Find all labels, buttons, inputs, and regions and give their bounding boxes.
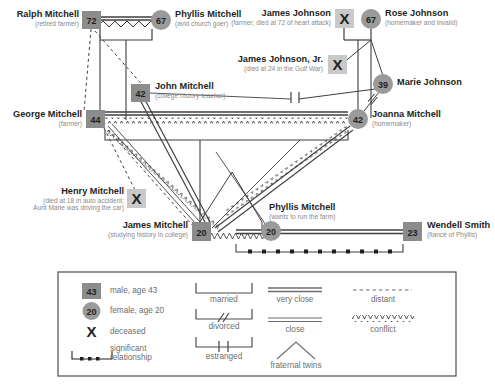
label-wendell-name: Wendell Smith bbox=[427, 221, 495, 231]
marriage-phyllisjr-wendell bbox=[236, 230, 403, 254]
legend-label-married: married bbox=[190, 295, 258, 304]
label-james-johnson: James Johnson (farmer; died at 72 of hea… bbox=[228, 9, 331, 26]
node-phyllis-jr[interactable]: 20 bbox=[261, 221, 281, 241]
label-james-jr: James Johnson, Jr. (died at 24 in the Gu… bbox=[190, 55, 323, 72]
node-henry[interactable]: X bbox=[127, 189, 146, 208]
node-george[interactable]: 44 bbox=[86, 110, 105, 128]
node-george-age: 44 bbox=[90, 115, 100, 125]
node-john-age: 42 bbox=[135, 89, 145, 99]
marriage-george-joanna bbox=[105, 112, 348, 140]
node-ralph[interactable]: 72 bbox=[82, 11, 101, 29]
label-marie-name: Marie Johnson bbox=[397, 78, 467, 88]
legend-close-swatch bbox=[268, 318, 322, 322]
node-phyllis-sr-age: 67 bbox=[156, 16, 166, 26]
marriage-ralph-phyllis bbox=[100, 17, 160, 40]
legend-label-deceased: deceased bbox=[110, 327, 146, 336]
node-james-jr-marker: X bbox=[332, 56, 342, 73]
label-james-mitchell-name: James Mitchell bbox=[62, 221, 188, 231]
legend-fraternal-twins-swatch bbox=[277, 342, 315, 359]
label-john-note: (college history teacher) bbox=[155, 92, 275, 99]
node-james-mitchell-age: 20 bbox=[196, 228, 206, 238]
legend-label-fraternal-twins: fraternal twins bbox=[258, 361, 334, 370]
label-john: John Mitchell (college history teacher) bbox=[155, 82, 275, 99]
legend-conflict-swatch bbox=[352, 315, 414, 322]
node-marie[interactable]: 39 bbox=[373, 74, 393, 94]
node-phyllis-jr-age: 20 bbox=[266, 227, 276, 237]
label-john-name: John Mitchell bbox=[155, 82, 275, 92]
legend-label-distant: distant bbox=[349, 295, 417, 304]
label-george-note: (farmer) bbox=[0, 120, 82, 127]
label-james-johnson-note: (farmer; died at 72 of heart attack) bbox=[228, 19, 331, 26]
label-henry-name: Henry Mitchell bbox=[28, 187, 124, 197]
node-joanna[interactable]: 42 bbox=[348, 109, 368, 129]
legend-male-swatch: 43 bbox=[82, 283, 101, 299]
label-james-mitchell-note: (studying history in college) bbox=[62, 231, 188, 238]
label-james-johnson-name: James Johnson bbox=[228, 9, 331, 19]
legend-label-close: close bbox=[261, 325, 329, 334]
legend-male-age: 43 bbox=[86, 287, 96, 297]
legend-female-swatch: 20 bbox=[83, 302, 101, 320]
label-phyllis-jr: Phyllis Mitchell (wants to run the farm) bbox=[269, 203, 389, 220]
node-phyllis-sr[interactable]: 67 bbox=[151, 10, 171, 30]
label-henry: Henry Mitchell (died at 18 in auto accid… bbox=[28, 187, 124, 211]
legend-label-divorced: divorced bbox=[190, 322, 258, 331]
label-ralph-note: (retired farmer) bbox=[0, 20, 79, 27]
node-joanna-age: 42 bbox=[353, 115, 363, 125]
legend-female-age: 20 bbox=[86, 307, 96, 317]
legend-divorced-swatch bbox=[196, 309, 252, 322]
node-john[interactable]: 42 bbox=[131, 84, 150, 102]
label-joanna-name: Joanna Mitchell bbox=[372, 110, 465, 120]
label-james-mitchell: James Mitchell (studying history in coll… bbox=[62, 221, 188, 238]
node-rose-age: 67 bbox=[366, 15, 376, 25]
label-phyllis-jr-note: (wants to run the farm) bbox=[269, 213, 389, 220]
label-joanna-note: (homemaker) bbox=[372, 120, 465, 127]
label-ralph-name: Ralph Mitchell bbox=[0, 10, 79, 20]
node-henry-marker: X bbox=[131, 190, 141, 207]
legend-very-close-swatch bbox=[268, 288, 322, 292]
label-rose: Rose Johnson (homemaker and invalid) bbox=[385, 9, 465, 26]
label-marie: Marie Johnson bbox=[397, 78, 467, 88]
label-george-name: George Mitchell bbox=[0, 110, 82, 120]
legend-significant-swatch bbox=[72, 351, 112, 361]
node-wendell-age: 23 bbox=[407, 228, 417, 238]
label-rose-name: Rose Johnson bbox=[385, 9, 465, 19]
label-phyllis-jr-name: Phyllis Mitchell bbox=[269, 203, 389, 213]
legend-label-very-close: very close bbox=[261, 295, 329, 304]
node-james-jr[interactable]: X bbox=[328, 55, 347, 74]
node-james-mitchell[interactable]: 20 bbox=[192, 222, 211, 241]
legend-label-conflict: conflict bbox=[349, 325, 417, 334]
legend-label-female: female, age 20 bbox=[110, 306, 164, 315]
legend-estranged-swatch bbox=[196, 337, 252, 352]
node-rose[interactable]: 67 bbox=[361, 9, 381, 29]
label-james-jr-note: (died at 24 in the Gulf War) bbox=[190, 65, 323, 72]
link-george-phyllisjr-zigzag bbox=[106, 128, 223, 231]
legend-label-male: male, age 43 bbox=[110, 286, 157, 295]
label-rose-note: (homemaker and invalid) bbox=[385, 19, 465, 26]
label-henry-note: (died at 18 in auto accident; Aunt Marie… bbox=[28, 197, 124, 211]
label-james-jr-name: James Johnson, Jr. bbox=[190, 55, 323, 65]
node-wendell[interactable]: 23 bbox=[403, 222, 422, 241]
node-ralph-age: 72 bbox=[86, 16, 96, 26]
link-john-phyllisjr bbox=[147, 97, 262, 224]
sibship-mitchell bbox=[100, 40, 126, 120]
legend-deceased-marker: X bbox=[86, 323, 96, 340]
node-james-johnson[interactable]: X bbox=[335, 9, 354, 28]
label-george: George Mitchell (farmer) bbox=[0, 110, 82, 127]
node-james-johnson-marker: X bbox=[339, 10, 349, 27]
legend-label-estranged: estranged bbox=[190, 352, 258, 361]
label-joanna: Joanna Mitchell (homemaker) bbox=[372, 110, 465, 127]
legend-label-significant: significant relationship bbox=[110, 344, 174, 363]
legend-married-swatch bbox=[196, 283, 252, 293]
label-wendell-note: (fiancé of Phyllis) bbox=[427, 231, 495, 238]
node-marie-age: 39 bbox=[378, 80, 388, 90]
label-ralph: Ralph Mitchell (retired farmer) bbox=[0, 10, 79, 27]
label-wendell: Wendell Smith (fiancé of Phyllis) bbox=[427, 221, 495, 238]
